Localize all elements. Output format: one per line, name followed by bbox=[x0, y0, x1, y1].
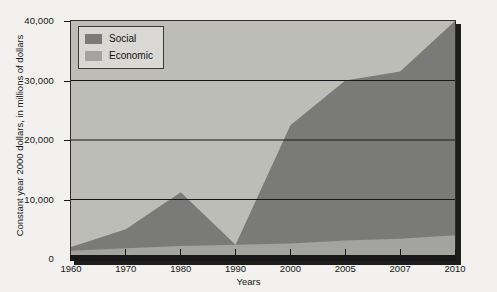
x-tick-mark bbox=[180, 249, 181, 256]
x-tick-label-1960: 1960 bbox=[41, 263, 101, 274]
x-tick-mark bbox=[235, 249, 236, 256]
y-axis-ticks: 010,00020,00030,00040,000 bbox=[0, 0, 64, 292]
x-tick-label-1970: 1970 bbox=[96, 263, 156, 274]
x-axis-baseline bbox=[70, 255, 456, 261]
y-tick-label-30000: 30,000 bbox=[24, 75, 54, 86]
plot-shadow-right bbox=[456, 24, 461, 264]
legend-swatch-economic bbox=[85, 51, 102, 61]
x-tick-mark bbox=[125, 249, 126, 256]
x-tick-mark bbox=[345, 249, 346, 256]
y-tick-label-40000: 40,000 bbox=[24, 15, 54, 26]
x-axis-title: Years bbox=[0, 276, 497, 287]
y-axis-title: Constant year 2000 dollars, in millions … bbox=[14, 11, 25, 261]
legend-item-social: Social bbox=[85, 32, 153, 46]
x-tick-label-2010: 2010 bbox=[425, 263, 485, 274]
legend-swatch-social bbox=[85, 34, 102, 44]
x-tick-label-2005: 2005 bbox=[315, 263, 375, 274]
x-tick-label-1980: 1980 bbox=[151, 263, 211, 274]
y-tick-label-20000: 20,000 bbox=[24, 134, 54, 145]
x-tick-label-2007: 2007 bbox=[370, 263, 430, 274]
chart-figure: 010,00020,00030,00040,000 19601970198019… bbox=[0, 0, 497, 292]
legend-label-economic: Economic bbox=[109, 51, 153, 61]
legend-item-economic: Economic bbox=[85, 49, 153, 63]
x-tick-label-1990: 1990 bbox=[206, 263, 266, 274]
y-tick-label-10000: 10,000 bbox=[24, 194, 54, 205]
chart-legend: Social Economic bbox=[78, 26, 164, 69]
x-tick-mark bbox=[290, 249, 291, 256]
x-tick-mark bbox=[400, 249, 401, 256]
legend-label-social: Social bbox=[109, 34, 136, 44]
x-tick-label-2000: 2000 bbox=[260, 263, 320, 274]
x-tick-mark bbox=[455, 249, 456, 256]
